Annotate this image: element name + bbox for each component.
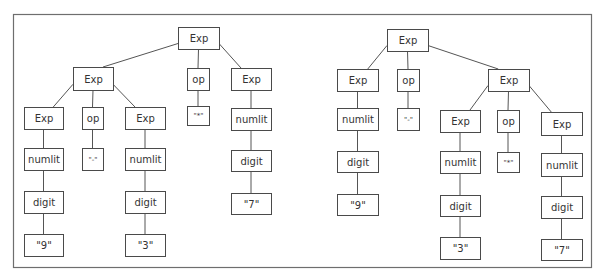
- node-label: numlit: [236, 114, 268, 125]
- node-exp: Exp: [25, 108, 64, 130]
- node-label: "3": [138, 240, 154, 251]
- node-digit: digit: [126, 192, 166, 214]
- node-terminal-minus: "-": [398, 109, 420, 131]
- tree-edge: [368, 46, 387, 70]
- tree-edge: [408, 51, 409, 69]
- node-label: digit: [551, 202, 573, 213]
- node-exp: Exp: [441, 111, 481, 133]
- node-label: numlit: [28, 154, 60, 165]
- node-label: digit: [134, 197, 156, 208]
- node-label: numlit: [445, 157, 477, 168]
- node-digit: digit: [441, 196, 481, 217]
- node-label: "-": [404, 116, 413, 124]
- node-op: op: [83, 108, 104, 130]
- tree-edge: [470, 86, 488, 111]
- node-label: Exp: [399, 35, 418, 46]
- node-label: "*": [504, 159, 514, 167]
- tree-edge: [529, 86, 551, 113]
- node-label: op: [502, 116, 514, 127]
- node-label: Exp: [349, 75, 368, 86]
- node-terminal-minus: "-": [83, 149, 104, 171]
- node-label: digit: [33, 197, 55, 208]
- parse-tree-diagram: ExpExpopExpExpopExp"*"numlitnumlit"-"num…: [0, 0, 600, 280]
- tree-edge: [103, 44, 178, 68]
- node-label: "*": [194, 112, 204, 120]
- node-terminal-times: "*": [498, 153, 520, 173]
- node-label: Exp: [136, 113, 155, 124]
- node-label: numlit: [546, 160, 578, 171]
- node-exp: Exp: [232, 69, 272, 91]
- diagram-frame: [14, 15, 592, 268]
- nodes-layer: ExpExpopExpExpopExp"*"numlitnumlit"-"num…: [25, 28, 583, 261]
- node-terminal-7: "7": [232, 194, 272, 215]
- node-digit: digit: [25, 192, 64, 214]
- node-label: "7": [244, 199, 260, 210]
- tree-edge: [219, 44, 241, 69]
- node-label: digit: [347, 157, 369, 168]
- node-label: Exp: [451, 116, 470, 127]
- node-terminal-3: "3": [126, 235, 166, 257]
- node-op: op: [188, 69, 210, 91]
- tree-edge: [428, 46, 498, 70]
- tree-edge: [93, 90, 94, 107]
- node-terminal-9: "9": [338, 195, 379, 216]
- node-numlit: numlit: [542, 154, 583, 177]
- node-terminal-9: "9": [25, 235, 64, 257]
- node-digit: digit: [542, 197, 583, 219]
- node-terminal-3: "3": [441, 238, 481, 260]
- node-label: "7": [554, 245, 570, 256]
- node-numlit: numlit: [441, 152, 481, 174]
- node-label: Exp: [500, 75, 519, 86]
- node-exp: Exp: [388, 30, 429, 52]
- node-exp: Exp: [338, 70, 379, 92]
- node-label: "9": [36, 240, 52, 251]
- node-label: "9": [350, 200, 366, 211]
- node-label: Exp: [190, 33, 209, 44]
- node-label: op: [87, 113, 99, 124]
- node-label: Exp: [553, 119, 572, 130]
- node-label: op: [402, 75, 414, 86]
- node-op: op: [398, 70, 420, 92]
- node-terminal-times: "*": [188, 107, 210, 126]
- node-numlit: numlit: [232, 109, 272, 131]
- edges-layer: [44, 44, 562, 240]
- node-exp: Exp: [179, 28, 220, 50]
- tree-edge: [508, 91, 509, 110]
- node-label: digit: [240, 156, 262, 167]
- node-numlit: numlit: [25, 149, 64, 171]
- node-label: op: [192, 74, 204, 85]
- node-label: Exp: [84, 74, 103, 85]
- node-op: op: [498, 111, 520, 133]
- node-exp: Exp: [489, 70, 530, 92]
- node-exp: Exp: [74, 68, 114, 91]
- tree-edge: [113, 84, 135, 107]
- node-label: Exp: [242, 74, 261, 85]
- node-label: numlit: [342, 114, 374, 125]
- node-digit: digit: [232, 151, 272, 172]
- node-terminal-7: "7": [542, 240, 583, 261]
- node-numlit: numlit: [126, 149, 166, 171]
- node-label: Exp: [35, 113, 54, 124]
- node-numlit: numlit: [338, 109, 379, 131]
- node-label: "3": [453, 243, 469, 254]
- node-exp: Exp: [542, 113, 583, 136]
- node-label: numlit: [130, 154, 162, 165]
- node-label: "-": [89, 156, 98, 164]
- node-exp: Exp: [126, 108, 166, 130]
- node-digit: digit: [338, 152, 379, 173]
- tree-edge: [198, 49, 199, 68]
- tree-edge: [53, 84, 73, 107]
- node-label: digit: [449, 201, 471, 212]
